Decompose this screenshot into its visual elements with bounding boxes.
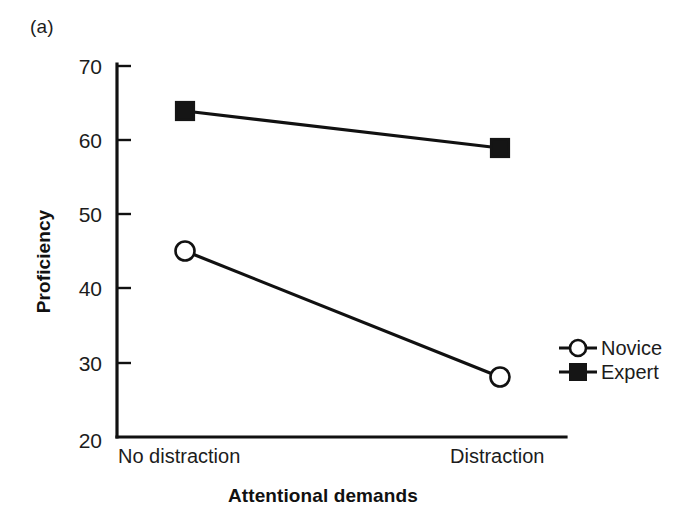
data-point-expert-distraction <box>491 139 509 157</box>
series-line-expert <box>185 111 500 148</box>
y-tick-label-40: 40 <box>50 278 102 299</box>
data-point-expert-no-distraction <box>176 102 194 120</box>
legend-item-expert[interactable]: Expert <box>558 360 698 384</box>
data-point-novice-no-distraction <box>176 242 195 261</box>
plot-area <box>0 0 700 532</box>
legend-label-expert: Expert <box>601 362 659 382</box>
x-tick-label-no-distraction: No distraction <box>118 446 240 466</box>
y-tick-label-20: 20 <box>50 430 102 451</box>
data-point-novice-distraction <box>491 368 510 387</box>
legend-label-novice: Novice <box>601 338 662 358</box>
legend-marker-filled-square-icon <box>558 361 598 383</box>
y-axis-title: Proficiency <box>34 203 53 321</box>
legend-marker-open-circle-icon <box>558 337 598 359</box>
series-line-novice <box>185 251 500 377</box>
y-tick-label-50: 50 <box>50 204 102 225</box>
y-tick-label-60: 60 <box>50 130 102 151</box>
x-axis-title: Attentional demands <box>228 486 418 505</box>
figure-panel: (a) 70 60 50 40 30 20 No distraction Dis… <box>0 0 700 532</box>
x-tick-label-distraction: Distraction <box>450 446 544 466</box>
y-tick-label-70: 70 <box>50 56 102 77</box>
legend-item-novice[interactable]: Novice <box>558 336 698 360</box>
y-tick-label-30: 30 <box>50 353 102 374</box>
legend: Novice Expert <box>558 336 698 384</box>
